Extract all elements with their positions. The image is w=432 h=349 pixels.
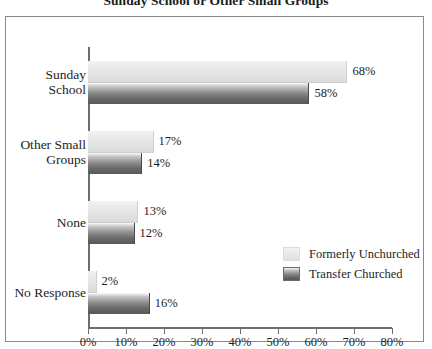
x-axis-tick-label: 20% (153, 335, 176, 349)
bar-formerly-unchurched[interactable] (88, 201, 138, 223)
x-axis-tick (354, 328, 355, 334)
bar-value-label: 17% (159, 134, 182, 149)
category-axis-labels: Sunday SchoolOther Small GroupsNoneNo Re… (6, 47, 86, 327)
x-axis-tick-label: 80% (381, 335, 404, 349)
bar-value-label: 16% (155, 296, 178, 311)
bar-value-label: 13% (143, 204, 166, 219)
legend-swatch-dark-icon (283, 267, 300, 281)
bar-transfer-churched[interactable] (88, 153, 142, 174)
legend-item-formerly-unchurched[interactable]: Formerly Unchurched (283, 245, 420, 263)
bar-formerly-unchurched[interactable] (88, 271, 97, 293)
x-axis-tick (126, 328, 127, 334)
bar-transfer-churched[interactable] (88, 293, 150, 314)
category-label: Other Small Groups (10, 137, 86, 167)
x-axis-tick-label: 60% (305, 335, 328, 349)
x-axis-tick-label: 30% (191, 335, 214, 349)
category-label: None (10, 215, 86, 230)
x-axis-tick (392, 328, 393, 334)
category-label: No Response (10, 285, 86, 300)
category-label: Sunday School (10, 67, 86, 97)
bar-formerly-unchurched[interactable] (88, 131, 154, 153)
x-axis-tick-label: 50% (267, 335, 290, 349)
x-axis-tick (316, 328, 317, 334)
chart-legend: Formerly Unchurched Transfer Churched (283, 245, 420, 285)
bar-value-label: 12% (140, 226, 163, 241)
x-axis-tick-label: 10% (115, 335, 138, 349)
x-axis-tick-label: 70% (343, 335, 366, 349)
legend-label-formerly-unchurched: Formerly Unchurched (309, 247, 420, 262)
legend-swatch-light-icon (283, 247, 300, 261)
bar-transfer-churched[interactable] (88, 83, 309, 104)
legend-item-transfer-churched[interactable]: Transfer Churched (283, 265, 420, 283)
x-axis-tick (240, 328, 241, 334)
chart-title: Sunday School or Other Small Groups (0, 0, 432, 9)
bar-value-label: 2% (102, 274, 119, 289)
legend-label-transfer-churched: Transfer Churched (309, 267, 403, 282)
chart-plot-frame: Sunday SchoolOther Small GroupsNoneNo Re… (5, 16, 424, 342)
chart-container: Sunday School or Other Small Groups Sund… (0, 0, 432, 349)
x-axis-tick (202, 328, 203, 334)
x-axis-tick (88, 328, 89, 334)
bar-value-label: 14% (147, 156, 170, 171)
x-axis-tick (164, 328, 165, 334)
bar-formerly-unchurched[interactable] (88, 61, 347, 83)
bar-value-label: 68% (352, 64, 375, 79)
x-axis-tick-label: 40% (229, 335, 252, 349)
bar-transfer-churched[interactable] (88, 223, 135, 244)
x-axis-tick (278, 328, 279, 334)
bar-value-label: 58% (314, 86, 337, 101)
x-axis-tick-label: 0% (80, 335, 97, 349)
